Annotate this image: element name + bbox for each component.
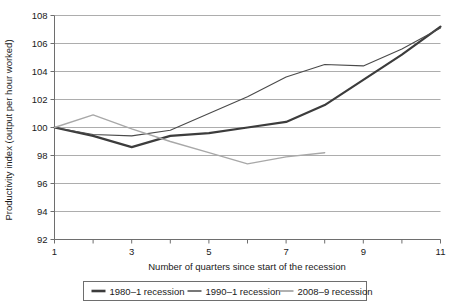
productivity-index-line-chart: 92949698100102104106108 1357911 Number o… [0,0,450,307]
x-axis-title: Number of quarters since start of the re… [148,261,345,272]
legend-label-2: 2008–9 recession [298,286,373,297]
legend: 1980–1 recession1990–1 recession2008–9 r… [84,282,373,301]
x-tick-label-3: 3 [129,246,134,257]
y-axis-title: Productivity index (output per hour work… [3,39,14,220]
y-tick-label-94: 94 [37,206,48,217]
x-axis-line-group [55,240,441,244]
y-tick-label-104: 104 [32,66,48,77]
legend-label-1: 1990–1 recession [206,286,281,297]
series-line-0 [55,27,441,147]
chart-svg: 92949698100102104106108 1357911 Number o… [0,0,450,307]
x-tick-label-11: 11 [436,246,446,257]
y-tick-labels-group: 92949698100102104106108 [32,10,48,245]
y-tick-label-106: 106 [32,38,48,49]
x-tick-label-1: 1 [52,246,57,257]
y-tick-label-100: 100 [32,122,48,133]
y-tick-label-108: 108 [32,10,48,21]
legend-label-0: 1980–1 recession [110,286,185,297]
y-tick-label-92: 92 [37,234,48,245]
x-tick-label-5: 5 [206,246,211,257]
x-tick-label-7: 7 [283,246,288,257]
y-tick-label-102: 102 [32,94,48,105]
series-group [55,27,441,164]
series-line-1 [55,28,441,136]
y-tick-label-98: 98 [37,150,48,161]
y-tick-label-96: 96 [37,178,48,189]
x-tick-labels-group: 1357911 [52,246,446,257]
x-tick-label-9: 9 [361,246,366,257]
